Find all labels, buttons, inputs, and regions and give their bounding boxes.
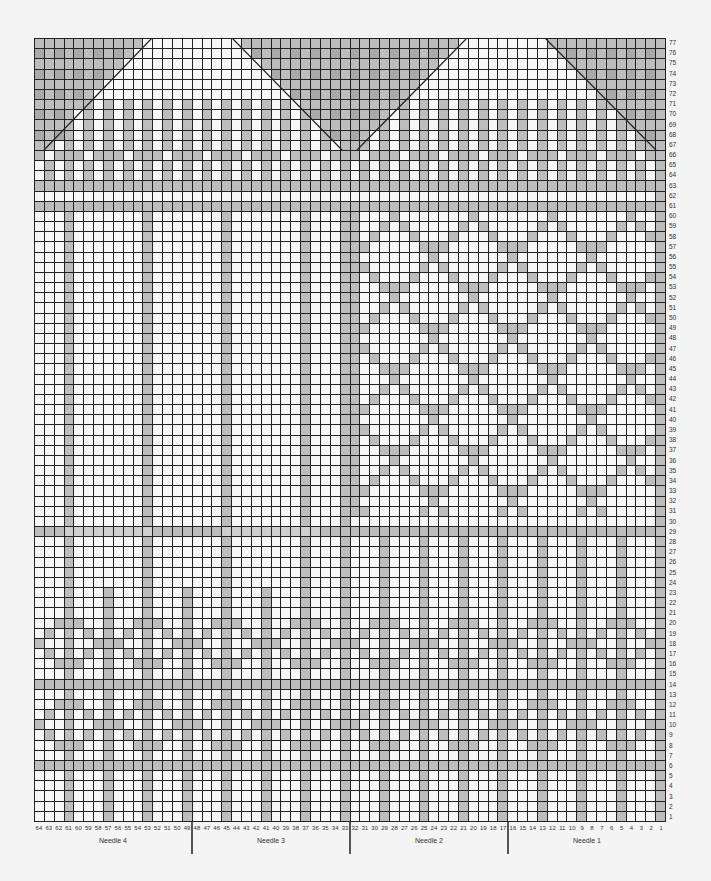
chart-cell: [104, 466, 113, 475]
chart-cell: [429, 80, 438, 89]
chart-cell: [380, 761, 389, 770]
chart-cell: [252, 588, 261, 597]
chart-cell: [390, 39, 399, 48]
chart-cell: [567, 568, 576, 577]
chart-cell: [84, 364, 93, 373]
chart-cell: [479, 283, 488, 292]
chart-cell: [498, 385, 507, 394]
chart-cell: [153, 293, 162, 302]
chart-cell: [617, 486, 626, 495]
chart-cell: [449, 588, 458, 597]
chart-cell: [232, 425, 241, 434]
chart-cell: [351, 751, 360, 760]
chart-cell: [449, 171, 458, 180]
chart-cell: [193, 425, 202, 434]
chart-cell: [272, 49, 281, 58]
chart-cell: [193, 192, 202, 201]
chart-cell: [281, 568, 290, 577]
chart-cell: [646, 720, 655, 729]
chart-cell: [489, 517, 498, 526]
chart-cell: [617, 761, 626, 770]
chart-cell: [548, 283, 557, 292]
chart-cell: [390, 558, 399, 567]
chart-cell: [242, 293, 251, 302]
chart-cell: [55, 415, 64, 424]
chart-cell: [587, 80, 596, 89]
chart-cell: [548, 181, 557, 190]
chart-cell: [400, 812, 409, 821]
chart-cell: [232, 547, 241, 556]
chart-cell: [222, 273, 231, 282]
chart-cell: [607, 669, 616, 678]
chart-cell: [469, 131, 478, 140]
chart-cell: [489, 354, 498, 363]
chart-cell: [331, 39, 340, 48]
chart-cell: [183, 344, 192, 353]
chart-cell: [410, 293, 419, 302]
chart-cell: [380, 181, 389, 190]
chart-cell: [203, 527, 212, 536]
chart-cell: [222, 405, 231, 414]
chart-cell: [439, 436, 448, 445]
chart-cell: [94, 751, 103, 760]
chart-cell: [55, 741, 64, 750]
chart-cell: [597, 680, 606, 689]
chart-cell: [183, 466, 192, 475]
chart-cell: [94, 537, 103, 546]
chart-cell: [281, 375, 290, 384]
chart-cell: [429, 588, 438, 597]
chart-cell: [55, 80, 64, 89]
chart-cell: [607, 802, 616, 811]
chart-cell: [587, 192, 596, 201]
chart-cell: [331, 812, 340, 821]
chart-cell: [420, 222, 429, 231]
chart-cell: [538, 70, 547, 79]
chart-cell: [567, 700, 576, 709]
chart-cell: [508, 324, 517, 333]
chart-cell: [656, 273, 665, 282]
chart-cell: [203, 131, 212, 140]
chart-cell: [429, 812, 438, 821]
chart-cell: [400, 171, 409, 180]
chart-cell: [380, 547, 389, 556]
chart-cell: [311, 781, 320, 790]
chart-cell: [400, 303, 409, 312]
chart-cell: [203, 446, 212, 455]
chart-cell: [242, 619, 251, 628]
chart-cell: [518, 761, 527, 770]
row-label: 20: [669, 618, 676, 628]
chart-cell: [281, 212, 290, 221]
chart-cell: [429, 100, 438, 109]
chart-cell: [380, 324, 389, 333]
chart-cell: [410, 588, 419, 597]
chart-cell: [449, 669, 458, 678]
chart-cell: [74, 314, 83, 323]
chart-cell: [627, 659, 636, 668]
chart-cell: [281, 415, 290, 424]
chart-cell: [449, 273, 458, 282]
chart-cell: [252, 619, 261, 628]
chart-cell: [143, 141, 152, 150]
chart-cell: [548, 344, 557, 353]
chart-cell: [646, 598, 655, 607]
chart-cell: [449, 49, 458, 58]
chart-cell: [55, 39, 64, 48]
chart-cell: [420, 771, 429, 780]
chart-cell: [459, 263, 468, 272]
chart-cell: [567, 192, 576, 201]
stitch-label: 43: [241, 825, 251, 831]
chart-cell: [341, 222, 350, 231]
chart-cell: [55, 608, 64, 617]
chart-cell: [153, 59, 162, 68]
chart-cell: [232, 232, 241, 241]
chart-cell: [429, 415, 438, 424]
chart-cell: [74, 537, 83, 546]
chart-cell: [597, 598, 606, 607]
chart-cell: [35, 49, 44, 58]
chart-cell: [459, 476, 468, 485]
chart-cell: [291, 171, 300, 180]
chart-cell: [370, 710, 379, 719]
chart-cell: [242, 598, 251, 607]
chart-cell: [153, 812, 162, 821]
chart-cell: [587, 141, 596, 150]
